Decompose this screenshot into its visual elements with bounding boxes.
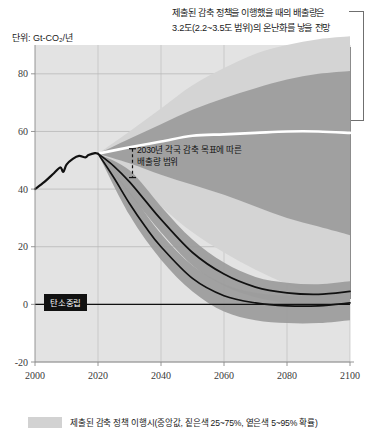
- note-2030-line-1: 2030년 각국 감축 목표에 따른: [137, 144, 242, 156]
- chart-canvas: -20020406080200020202040206020802100: [0, 0, 373, 400]
- y-tick-label: 0: [23, 299, 28, 310]
- chart-legend: 제출된 감축 정책 이행시(중앙값, 짙은색 25~75%, 옅은색 5~95%…: [0, 408, 373, 434]
- note-2030-range: 2030년 각국 감축 목표에 따른 배출량 범위: [137, 144, 242, 168]
- y-tick-label: -20: [15, 357, 28, 368]
- y-tick-label: 80: [18, 68, 28, 79]
- x-tick-label: 2100: [340, 370, 360, 381]
- emissions-scenario-chart: -20020406080200020202040206020802100: [0, 0, 373, 400]
- y-tick-label: 40: [18, 184, 28, 195]
- legend-label-submitted-policy: 제출된 감축 정책 이행시(중앙값, 짙은색 25~75%, 옅은색 5~95%…: [70, 416, 318, 428]
- carbon-neutral-badge: 탄소중립: [44, 294, 87, 311]
- y-tick-label: 60: [18, 126, 28, 137]
- x-tick-label: 2000: [25, 370, 45, 381]
- x-tick-label: 2040: [151, 370, 171, 381]
- x-tick-label: 2060: [214, 370, 234, 381]
- x-tick-label: 2020: [88, 370, 108, 381]
- y-tick-label: 20: [18, 241, 28, 252]
- note-2030-line-2: 배출량 범위: [137, 156, 242, 168]
- x-tick-label: 2080: [277, 370, 297, 381]
- legend-swatch-submitted-policy: [28, 417, 62, 428]
